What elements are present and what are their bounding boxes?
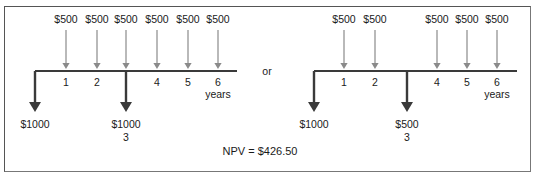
period-label: 5: [464, 76, 470, 88]
period-label: 4: [154, 76, 160, 88]
outflow-amount: $1000: [299, 118, 328, 130]
inflow-amount: $500: [363, 13, 386, 25]
period-label: 1: [63, 76, 69, 88]
inflow-amount: $500: [176, 13, 199, 25]
period-label: 6: [215, 76, 221, 88]
inflow-arrowhead-icon: [153, 63, 160, 69]
unit-label: years: [205, 88, 231, 100]
outflow-arrowhead-icon: [308, 102, 320, 112]
unit-label: years: [484, 88, 510, 100]
inflow-arrowhead-icon: [62, 63, 69, 69]
period-label: 5: [185, 76, 191, 88]
inflow-arrowhead-icon: [93, 63, 100, 69]
period-label: 4: [434, 76, 440, 88]
npv-result: NPV = $426.50: [223, 145, 298, 157]
inflow-arrowhead-icon: [184, 63, 191, 69]
outflow-arrowhead-icon: [120, 102, 132, 112]
inflow-arrowhead-icon: [493, 63, 500, 69]
period-label: 6: [494, 76, 500, 88]
outflow-amount: $1000: [20, 118, 49, 130]
inflow-amount: $500: [455, 13, 478, 25]
inflow-amount: $500: [114, 13, 137, 25]
inflow-amount: $500: [54, 13, 77, 25]
period-label: 2: [94, 76, 100, 88]
inflow-amount: $500: [85, 13, 108, 25]
outflow-amount: $1000: [111, 118, 140, 130]
inflow-amount: $500: [485, 13, 508, 25]
inflow-arrowhead-icon: [463, 63, 470, 69]
inflow-arrowhead-icon: [371, 63, 378, 69]
outflow-arrowhead-icon: [401, 102, 413, 112]
inflow-arrowhead-icon: [214, 63, 221, 69]
inflow-amount: $500: [206, 13, 229, 25]
inflow-amount: $500: [332, 13, 355, 25]
inflow-arrowhead-icon: [340, 63, 347, 69]
inflow-arrowhead-icon: [433, 63, 440, 69]
inflow-amount: $500: [145, 13, 168, 25]
period-label: 2: [372, 76, 378, 88]
inflow-amount: $500: [425, 13, 448, 25]
period-label: 3: [123, 131, 129, 143]
period-label: 1: [341, 76, 347, 88]
period-label: 3: [404, 131, 410, 143]
inflow-arrowhead-icon: [122, 63, 129, 69]
connector-or-label: or: [262, 65, 271, 77]
outflow-arrowhead-icon: [29, 102, 41, 112]
outflow-amount: $500: [395, 118, 418, 130]
